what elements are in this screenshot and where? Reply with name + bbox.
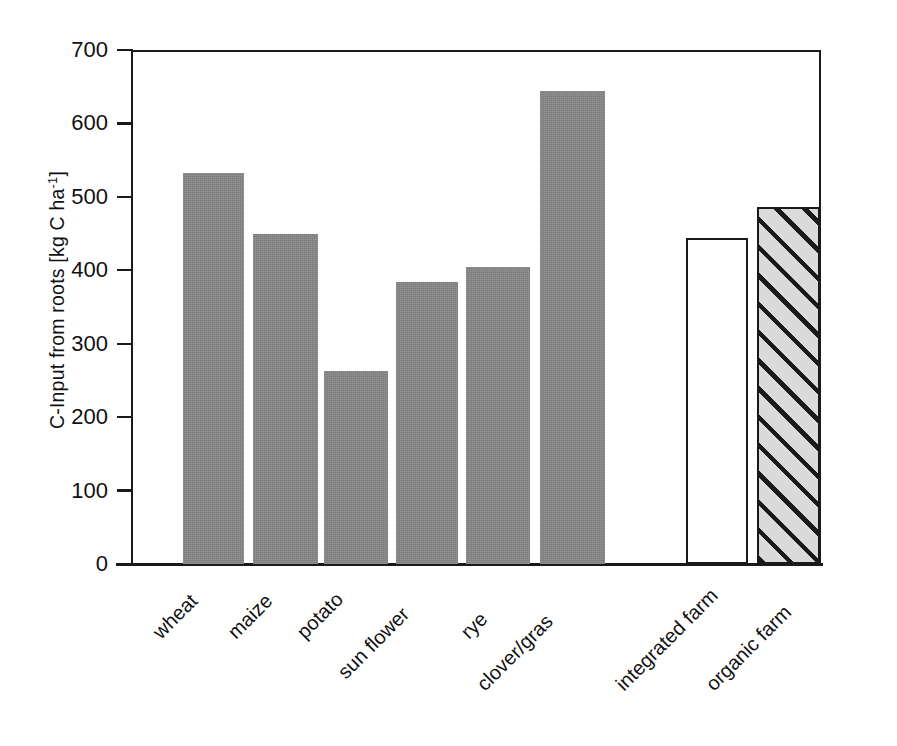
bar-clover-gras[interactable] [540,91,605,564]
bar-maize[interactable] [253,234,318,564]
x-axis-label-maize: maize [224,590,276,642]
bars-layer [0,50,897,564]
x-axis-label-organic-farm: organic farm [702,601,795,694]
bar-organic-farm[interactable] [757,207,820,564]
bar-potato[interactable] [324,371,388,564]
x-axis-label-potato: potato [293,589,346,642]
bar-chart-figure: C-Input from roots [kg C ha-1] 010020030… [0,0,897,746]
bar-wheat[interactable] [183,173,244,564]
bar-integrated-farm[interactable] [686,238,748,564]
bar-sun-flower[interactable] [396,282,458,564]
x-axis-label-sun-flower: sun flower [334,603,413,682]
x-axis-label-wheat: wheat [149,590,201,642]
x-axis-label-rye: rye [457,608,491,642]
bar-rye[interactable] [466,267,530,564]
